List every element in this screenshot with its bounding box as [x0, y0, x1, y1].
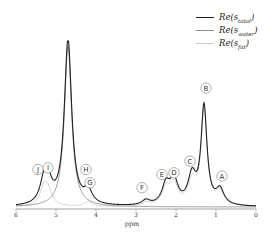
x-tick-label: 3 — [134, 211, 138, 218]
legend-label: Re(sfat) — [219, 38, 249, 50]
peak-label-j: J — [33, 164, 43, 174]
peak-annotations: ABCDEFGHIJ — [33, 83, 227, 193]
legend-item-water: Re(swater) — [196, 24, 272, 37]
peak-label-d: D — [169, 168, 179, 178]
x-tick-label: 6 — [14, 211, 18, 218]
legend-swatch — [196, 30, 214, 31]
peak-label-e: E — [157, 169, 167, 179]
peak-label-text: J — [36, 166, 39, 174]
peak-label-text: F — [140, 184, 144, 192]
legend-swatch — [196, 43, 214, 44]
peak-label-b: B — [201, 83, 211, 93]
peak-label-text: A — [220, 173, 225, 181]
x-tick-label: 4 — [94, 211, 98, 218]
water-signal-curve — [16, 46, 256, 207]
peak-label-text: I — [47, 164, 49, 172]
legend-item-fat: Re(sfat) — [196, 37, 272, 50]
legend-label: Re(stotal) — [219, 12, 254, 24]
peak-label-i: I — [43, 163, 53, 173]
legend-swatch — [196, 17, 214, 18]
plot-area — [16, 41, 256, 207]
x-tick-label: 0 — [254, 211, 258, 218]
legend-label: Re(swater) — [219, 25, 258, 37]
x-tick-label: 1 — [214, 211, 218, 218]
peak-label-f: F — [137, 183, 147, 193]
peak-label-text: B — [204, 85, 209, 93]
x-axis-label: ppm — [125, 220, 140, 228]
peak-label-c: C — [185, 156, 195, 166]
peak-label-text: C — [188, 158, 193, 166]
x-tick-label: 5 — [54, 211, 58, 218]
peak-label-text: H — [83, 166, 88, 174]
peak-label-h: H — [81, 164, 91, 174]
peak-label-a: A — [217, 171, 227, 181]
peak-label-g: G — [85, 178, 95, 188]
peak-label-text: E — [160, 171, 164, 179]
peak-label-text: G — [87, 179, 92, 187]
legend-item-total: Re(stotal) — [196, 11, 272, 24]
legend: Re(stotal)Re(swater)Re(sfat) — [196, 11, 272, 50]
fat-signal-curve — [16, 107, 256, 206]
x-tick-label: 2 — [174, 211, 178, 218]
x-axis-ticks: 6543210 — [14, 209, 258, 218]
peak-label-text: D — [171, 169, 176, 177]
